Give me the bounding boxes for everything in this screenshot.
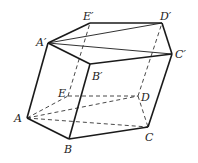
vertex-label-E1: E′ <box>82 10 94 23</box>
vertex-label-D: D <box>140 91 150 104</box>
edge-D-D1 <box>138 23 162 96</box>
edge-B1-C1 <box>90 54 172 64</box>
vertex-label-D1: D′ <box>159 10 172 23</box>
vertex-label-C1: C′ <box>175 48 186 61</box>
prism-diagram: ABCDEA′B′C′D′E′ <box>0 0 198 163</box>
edge-B-C <box>69 127 148 139</box>
vertex-label-E: E <box>57 87 66 100</box>
edge-E-E1 <box>68 23 90 96</box>
vertex-label-A: A <box>13 112 22 125</box>
edge-A-A1 <box>27 43 48 118</box>
edge-A1-D1 <box>48 23 162 43</box>
edge-C1-D1 <box>162 23 172 54</box>
vertex-label-A1: A′ <box>35 36 47 49</box>
edge-A-D <box>27 96 138 118</box>
vertex-label-B: B <box>63 143 72 156</box>
vertex-label-B1: B′ <box>91 70 103 83</box>
edge-E1-A1 <box>48 23 90 43</box>
edge-A-C <box>27 118 148 127</box>
edge-A-B <box>27 118 69 139</box>
edge-C-C1 <box>148 54 172 127</box>
edge-B-B1 <box>69 64 90 139</box>
vertex-label-C: C <box>145 131 154 144</box>
